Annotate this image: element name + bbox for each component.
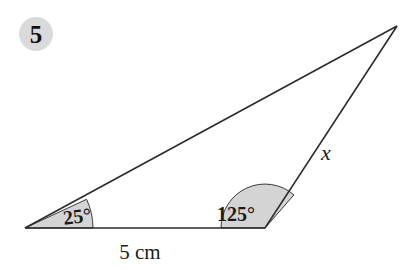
angle-125-label: 125° xyxy=(217,203,255,225)
exercise-badge: 5 xyxy=(19,17,53,51)
triangle-outline xyxy=(25,26,397,228)
angle-25-label: 25° xyxy=(62,203,92,228)
diagram-page: 5 25° 125° 5 cm x xyxy=(0,0,411,273)
geometry-figure: 5 25° 125° 5 cm x xyxy=(0,0,411,273)
base-length-label: 5 cm xyxy=(119,240,160,264)
unknown-side-label: x xyxy=(320,140,331,165)
exercise-number: 5 xyxy=(30,21,43,48)
